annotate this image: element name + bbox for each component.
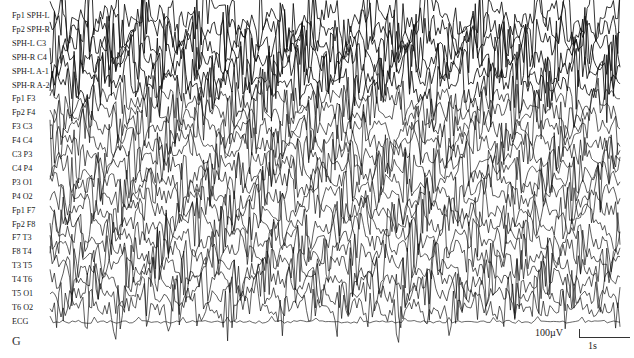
channel-trace xyxy=(50,29,620,122)
scale-amplitude-label: 100µV xyxy=(535,327,563,338)
channel-trace xyxy=(50,93,620,160)
panel-letter: G xyxy=(12,334,21,349)
channel-trace xyxy=(50,191,620,259)
eeg-traces xyxy=(0,0,634,358)
scale-time-label: 1s xyxy=(588,340,597,351)
scale-bar-horizontal xyxy=(579,337,630,338)
